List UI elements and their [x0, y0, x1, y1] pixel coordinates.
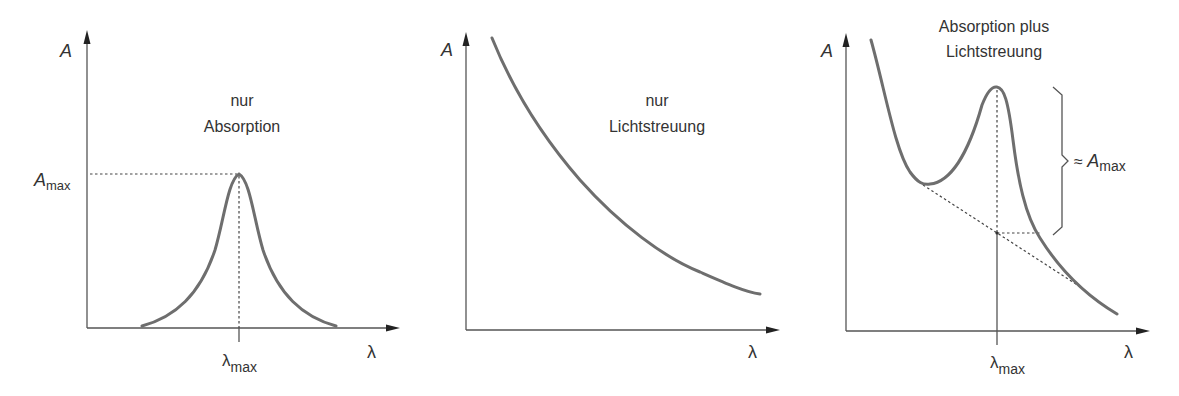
panel-title-line-2: Absorption	[204, 118, 281, 135]
x-axis-label: λ	[367, 342, 376, 362]
amax-label: Amax	[33, 170, 71, 193]
x-axis-label: λ	[748, 342, 757, 362]
amax-brace	[1053, 87, 1068, 235]
panel-title-line-1: nur	[230, 92, 254, 109]
y-axis-arrow-icon	[843, 33, 850, 47]
y-axis-label: A	[820, 41, 833, 61]
baseline-point	[995, 231, 998, 234]
x-axis-arrow-icon	[766, 327, 780, 334]
y-axis-label: A	[59, 41, 72, 61]
y-axis-label: A	[440, 40, 453, 60]
panel-combined: A λ Absorption plus Lichtstreuung ≈ Amax…	[820, 18, 1150, 377]
scattering-curve	[492, 38, 760, 294]
x-axis-arrow-icon	[1136, 328, 1150, 335]
panel-scattering: A λ nur Lichtstreuung	[440, 32, 780, 362]
panel-title-line-1: nur	[645, 92, 669, 109]
panel-absorption: A λ nur Absorption Amax λmax	[33, 30, 400, 375]
y-axis-arrow-icon	[463, 32, 470, 46]
approx-amax-label: ≈ Amax	[1074, 151, 1126, 174]
lambda-max-label: λmax	[222, 351, 257, 375]
lambda-max-label: λmax	[990, 353, 1025, 377]
x-axis-arrow-icon	[386, 325, 400, 332]
y-axis-arrow-icon	[84, 30, 91, 44]
panel-title-line-1: Absorption plus	[939, 18, 1049, 35]
panel-title-line-2: Lichtstreuung	[946, 43, 1042, 60]
x-axis-label: λ	[1124, 342, 1133, 362]
combined-curve	[871, 40, 1117, 314]
figure-canvas: A λ nur Absorption Amax λmax A λ nur Lic…	[0, 0, 1179, 396]
panel-title-line-2: Lichtstreuung	[609, 118, 705, 135]
baseline-tangent	[923, 185, 1082, 288]
